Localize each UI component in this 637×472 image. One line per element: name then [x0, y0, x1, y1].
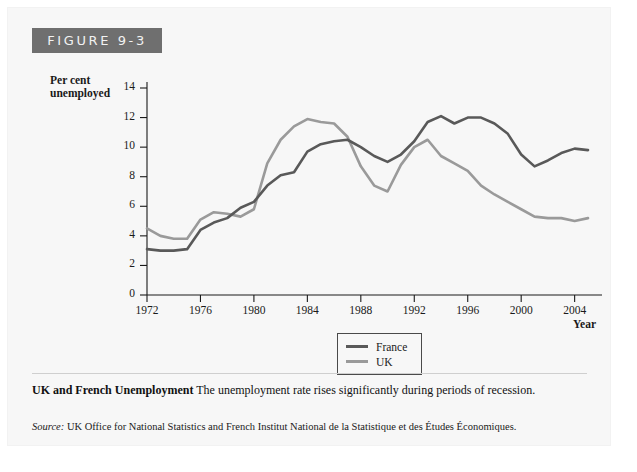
x-tick-label: 2000 — [501, 304, 541, 316]
x-tick-label: 2004 — [555, 304, 595, 316]
legend-item-uk: UK — [346, 354, 407, 369]
figure-caption-title: UK and French Unemployment — [32, 383, 193, 397]
legend-item-france: France — [346, 339, 407, 354]
y-tick-label: 10 — [111, 139, 135, 151]
y-tick-label: 0 — [111, 287, 135, 299]
chart-canvas — [32, 66, 602, 316]
x-tick-label: 1976 — [180, 304, 220, 316]
figure-source-body: UK Office for National Statistics and Fr… — [64, 421, 516, 432]
figure-card: FIGURE 9-3 Per cent unemployed 024681012… — [8, 8, 610, 445]
x-tick-label: 1980 — [234, 304, 274, 316]
x-tick-label: 1992 — [394, 304, 434, 316]
x-axis-title: Year — [573, 318, 596, 330]
legend-swatch-uk — [346, 360, 368, 363]
figure-banner-label: FIGURE 9-3 — [47, 33, 147, 48]
y-tick-label: 14 — [111, 80, 135, 92]
y-tick-label: 12 — [111, 110, 135, 122]
legend-label-uk: UK — [376, 356, 393, 368]
chart-legend: France UK — [337, 333, 422, 375]
x-tick-label: 1988 — [341, 304, 381, 316]
legend-swatch-france — [346, 345, 368, 348]
y-tick-label: 8 — [111, 169, 135, 181]
y-tick-label: 4 — [111, 228, 135, 240]
y-tick-label: 2 — [111, 257, 135, 269]
caption-divider — [32, 373, 587, 374]
x-tick-label: 1984 — [287, 304, 327, 316]
figure-banner: FIGURE 9-3 — [32, 28, 162, 53]
x-tick-label: 1996 — [448, 304, 488, 316]
y-tick-label: 6 — [111, 198, 135, 210]
figure-caption: UK and French Unemployment The unemploym… — [32, 382, 588, 398]
figure-source: Source: UK Office for National Statistic… — [32, 420, 588, 434]
chart-plot-area: Per cent unemployed 02468101214 19721976… — [32, 66, 602, 316]
figure-source-label: Source: — [32, 421, 64, 432]
figure-caption-body: The unemployment rate rises significantl… — [193, 383, 535, 397]
legend-label-france: France — [376, 341, 407, 353]
x-tick-label: 1972 — [127, 304, 167, 316]
